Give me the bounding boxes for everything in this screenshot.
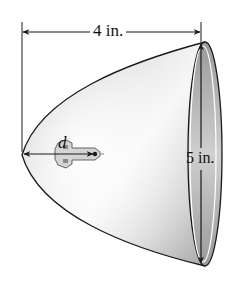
reflector-diagram: 4 in. 5 in. d xyxy=(0,0,232,285)
diameter-label: 5 in. xyxy=(186,150,214,166)
depth-label: 4 in. xyxy=(90,22,126,39)
focus-distance-label: d xyxy=(58,134,67,151)
